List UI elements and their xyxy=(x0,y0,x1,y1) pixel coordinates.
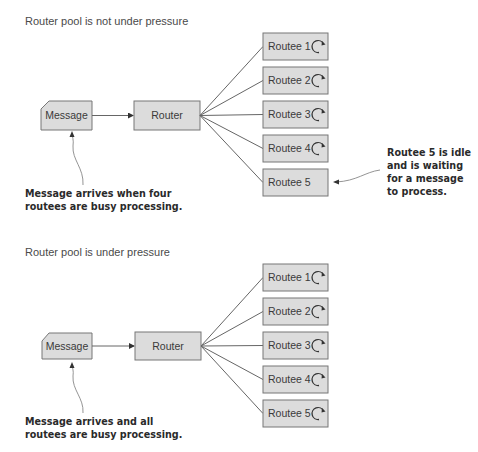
message-note: Message arrives when four routees are bu… xyxy=(25,188,182,212)
message-label: Message xyxy=(46,340,89,352)
routee-label: Routee 3 xyxy=(268,339,311,351)
wire-routee-3 xyxy=(201,346,263,347)
router-to-routee-wires xyxy=(200,47,263,183)
routee-label: Routee 5 xyxy=(268,176,311,188)
routee-label: Routee 2 xyxy=(268,74,311,86)
routee-box: Routee 4 xyxy=(263,366,328,393)
router-pool-diagram: Router pool is not under pressure Messag… xyxy=(0,0,478,452)
routee-box: Routee 3 xyxy=(263,101,328,128)
panel-title: Router pool is not under pressure xyxy=(25,15,188,27)
wire-routee-4 xyxy=(200,116,263,149)
routee-box-idle: Routee 5 xyxy=(263,169,328,196)
routee-box: Routee 1 xyxy=(263,264,328,291)
message-note-arrowhead xyxy=(70,131,75,137)
routee-label: Routee 1 xyxy=(268,40,311,52)
routee-box: Routee 5 xyxy=(263,400,328,427)
router-box: Router xyxy=(135,332,201,360)
routee-box: Routee 3 xyxy=(263,332,328,359)
wire-routee-3 xyxy=(200,115,263,116)
message-note-pointer xyxy=(72,364,83,413)
routee-label: Routee 2 xyxy=(268,305,311,317)
wire-routee-4 xyxy=(201,346,263,380)
message-note-pointer xyxy=(72,133,83,185)
wire-routee-5 xyxy=(201,346,263,414)
routee-label: Routee 4 xyxy=(268,373,311,385)
wire-routee-2 xyxy=(201,312,263,347)
routee-box: Routee 4 xyxy=(263,135,328,162)
wire-routee-2 xyxy=(200,81,263,116)
routee-label: Routee 5 xyxy=(268,407,311,419)
router-to-routee-wires xyxy=(201,278,263,414)
message-note: Message arrives and all routees are busy… xyxy=(25,416,182,440)
router-box: Router xyxy=(134,101,200,130)
routee-box: Routee 2 xyxy=(263,67,328,94)
message-label: Message xyxy=(45,109,88,121)
routee-note-arrowhead xyxy=(333,180,339,185)
router-label: Router xyxy=(152,340,184,352)
routee-note-pointer xyxy=(336,170,380,182)
routee-box: Routee 2 xyxy=(263,298,328,325)
message-box: Message xyxy=(42,333,92,359)
message-note-arrowhead xyxy=(70,362,75,368)
panel-not-under-pressure: Router pool is not under pressure Messag… xyxy=(25,15,474,212)
router-label: Router xyxy=(151,109,183,121)
routee-label: Routee 3 xyxy=(268,108,311,120)
routee-note: Routee 5 is idle and is waiting for a me… xyxy=(387,147,474,197)
wire-routee-1 xyxy=(201,278,263,347)
panel-under-pressure: Router pool is under pressure Message Ro… xyxy=(25,246,328,440)
message-box: Message xyxy=(41,101,92,130)
routee-label: Routee 1 xyxy=(268,271,311,283)
routee-box: Routee 1 xyxy=(263,33,328,60)
wire-routee-1 xyxy=(200,47,263,116)
wire-routee-5 xyxy=(200,116,263,183)
routee-label: Routee 4 xyxy=(268,142,311,154)
panel-title: Router pool is under pressure xyxy=(25,246,170,258)
